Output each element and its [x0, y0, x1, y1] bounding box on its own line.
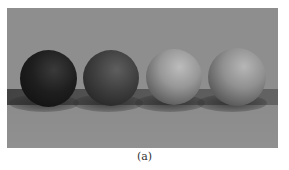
- sphere-dark-gray: [83, 50, 139, 106]
- sphere-render-figure: [7, 8, 278, 148]
- figure-caption: (a): [0, 150, 289, 163]
- sphere-black: [20, 50, 77, 107]
- sphere-light-gray-2: [208, 48, 266, 106]
- sphere-light-gray-1: [146, 49, 202, 105]
